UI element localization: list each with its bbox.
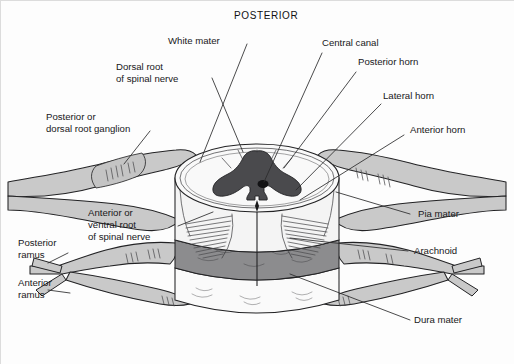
anterior-horn-label: Anterior horn (410, 124, 465, 135)
right-anterior-ramus (448, 274, 478, 296)
spinal-cord-cylinder (175, 144, 339, 313)
ganglion-label-line2: dorsal root ganglion (46, 123, 130, 134)
ventral-root-label-line3: of spinal nerve (88, 231, 150, 242)
ganglion-label-line1: Posterior or (46, 111, 96, 122)
leader-dorsal-root (212, 78, 243, 152)
arachnoid-label: Arachnoid (414, 245, 457, 256)
spinal-cord-diagram: POSTERIOR White mater Dorsal root of spi… (0, 0, 514, 364)
posterior-ramus-label-line2: ramus (18, 249, 45, 260)
white-mater-label: White mater (168, 35, 221, 46)
left-dorsal-root-ganglion (92, 153, 146, 188)
ventral-root-label-line1: Anterior or (88, 207, 134, 218)
posterior-title: POSTERIOR (234, 10, 298, 21)
figure-canvas: POSTERIOR White mater Dorsal root of spi… (0, 0, 514, 364)
dorsal-root-label-line1: Dorsal root (116, 61, 163, 72)
dorsal-root-label-line2: of spinal nerve (116, 73, 178, 84)
right-nerve-group (318, 150, 506, 306)
lateral-horn-label: Lateral horn (383, 90, 434, 101)
pia-mater-label: Pia mater (418, 208, 460, 219)
central-canal (258, 180, 269, 188)
dura-mater-label: Dura mater (414, 314, 463, 325)
leader-posterior-ramus (48, 253, 68, 263)
leader-anterior-ramus (48, 290, 70, 293)
ventral-root-label-line2: ventral root (88, 219, 136, 230)
central-canal-label: Central canal (322, 37, 379, 48)
left-dura-nerve (66, 272, 190, 306)
posterior-horn-label: Posterior horn (358, 56, 418, 67)
right-dura-nerve (324, 272, 448, 306)
anterior-ramus-label-line2: ramus (18, 289, 45, 300)
anterior-ramus-label-line1: Anterior (18, 277, 52, 288)
posterior-ramus-label-line1: Posterior (18, 237, 57, 248)
right-dorsal-root-nerve (318, 150, 506, 197)
